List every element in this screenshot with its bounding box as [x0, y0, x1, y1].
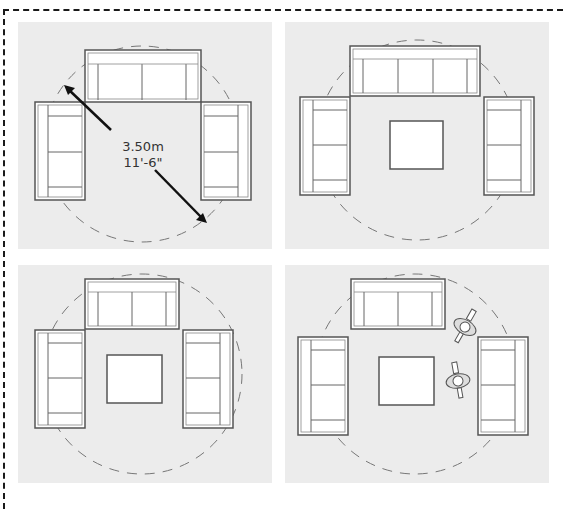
layout-2-drawing — [285, 22, 549, 249]
dimension-label: 3.50m 11'-6" — [108, 139, 178, 171]
layout-4-drawing — [285, 265, 549, 483]
sofa-top — [85, 279, 179, 329]
layout-3-drawing — [18, 265, 272, 483]
dimension-metric: 3.50m — [108, 139, 178, 155]
coffee-table — [390, 121, 443, 169]
layout-panel-1: 3.50m 11'-6" — [18, 22, 272, 249]
sofa-left — [298, 337, 348, 435]
sofa-left — [300, 97, 350, 195]
sofa-top — [350, 46, 480, 96]
sofa-left — [35, 102, 85, 200]
sofa-right — [183, 330, 233, 428]
sofa-top — [351, 279, 445, 329]
person-icon — [443, 360, 473, 400]
coffee-table — [379, 357, 434, 405]
sofa-right — [201, 102, 251, 200]
layout-panel-4 — [285, 265, 549, 483]
sofa-left — [35, 330, 85, 428]
layout-panel-3 — [18, 265, 272, 483]
coffee-table — [107, 355, 162, 403]
layout-panel-2 — [285, 22, 549, 249]
sofa-right — [478, 337, 528, 435]
sofa-top — [85, 50, 201, 102]
layout-1-drawing — [18, 22, 272, 249]
sofa-right — [484, 97, 534, 195]
dimension-imperial: 11'-6" — [108, 155, 178, 171]
